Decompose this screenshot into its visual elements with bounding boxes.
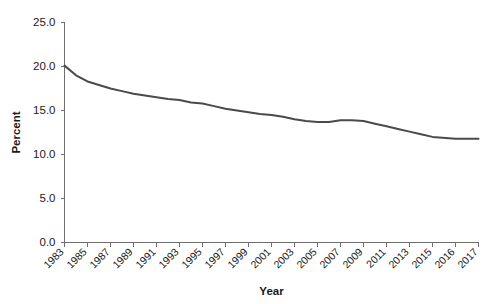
x-tick-label: 1991 [133,245,158,270]
y-axis-ticks: 0.05.010.015.020.025.0 [33,16,64,248]
line-chart: 0.05.010.015.020.025.0 19831985198719891… [0,0,498,304]
y-tick-label: 10.0 [33,148,55,160]
x-tick-label: 2005 [294,245,319,270]
x-axis-ticks: 1983198519871989199119931995199719992001… [41,243,480,271]
x-tick-label: 1985 [64,245,89,270]
x-tick-label: 2017 [455,245,480,270]
x-tick-label: 1983 [41,245,66,270]
x-axis-title: Year [259,285,284,297]
y-tick-label: 20.0 [33,60,55,72]
x-tick-label: 2013 [386,245,411,270]
x-tick-label: 1997 [202,245,227,270]
x-tick-label: 2016 [432,245,457,270]
x-tick-label: 2015 [409,245,434,270]
x-tick-label: 2009 [340,245,365,270]
x-tick-label: 1999 [225,245,250,270]
y-axis-title: Percent [10,111,22,153]
x-tick-label: 2011 [363,245,388,270]
x-tick-label: 1995 [179,245,204,270]
x-tick-label: 2003 [271,245,296,270]
x-tick-label: 2001 [248,245,273,270]
x-tick-label: 1993 [156,245,181,270]
y-tick-label: 0.0 [40,236,56,248]
y-tick-label: 15.0 [33,104,55,116]
x-tick-label: 2007 [317,245,342,270]
data-series-line [65,66,479,139]
x-tick-label: 1989 [110,245,135,270]
y-tick-label: 25.0 [33,16,55,28]
y-tick-label: 5.0 [40,192,56,204]
chart-canvas: 0.05.010.015.020.025.0 19831985198719891… [0,0,498,304]
x-tick-label: 1987 [87,245,112,270]
